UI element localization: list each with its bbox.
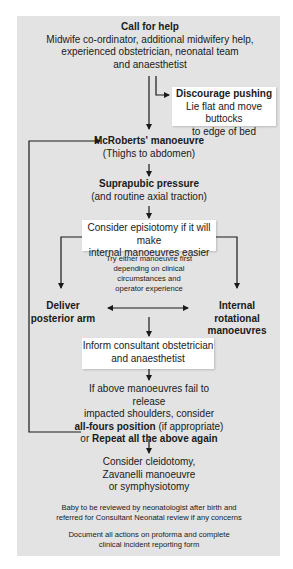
baby-review-line2: referred for Consultant Neonatal review …	[20, 513, 278, 523]
inform-consultant-line2: and anaesthetist	[82, 353, 214, 366]
suprapubic-subtitle: (and routine axial traction)	[89, 191, 209, 204]
final-options-node: Consider cleidotomy, Zavanelli manoeuvre…	[89, 456, 209, 494]
final-options-line1: Consider cleidotomy,	[89, 456, 209, 469]
repeat-text: Repeat all the above again	[92, 433, 218, 444]
document-line2: clinical incident reporting form	[20, 540, 278, 550]
if-fail-node: If above manoeuvres fail to release impa…	[74, 383, 224, 446]
call-for-help-line2: experienced obstetrician, neonatal team	[30, 46, 270, 59]
posterior-arm-node: Deliver posterior arm	[30, 300, 96, 325]
baby-review-line1: Baby to be reviewed by neonatologist aft…	[20, 503, 278, 513]
suprapubic-node: Suprapubic pressure (and routine axial t…	[89, 178, 209, 203]
suprapubic-title: Suprapubic pressure	[89, 178, 209, 191]
final-options-line2: Zavanelli manoeuvre	[89, 469, 209, 482]
try-either-note: Try either manoeuvre first depending on …	[94, 254, 204, 294]
discourage-pushing-node: Discourage pushing Lie flat and move but…	[172, 87, 276, 126]
if-fail-line3: all-fours position (if appropriate)	[74, 421, 224, 434]
inform-consultant-node: Inform consultant obstetrician and anaes…	[82, 338, 214, 369]
mcroberts-subtitle: (Thighs to abdomen)	[89, 148, 209, 161]
final-options-line3: or symphysiotomy	[89, 481, 209, 494]
posterior-arm-line2: posterior arm	[30, 313, 96, 326]
posterior-arm-line1: Deliver	[30, 300, 96, 313]
discourage-pushing-line1: Lie flat and move buttocks	[172, 101, 276, 126]
if-fail-line1: If above manoeuvres fail to release	[74, 383, 224, 408]
mcroberts-node: McRoberts' manoeuvre (Thighs to abdomen)	[89, 135, 209, 160]
internal-rotational-line2: manoeuvres	[196, 325, 278, 338]
mcroberts-title: McRoberts' manoeuvre	[89, 135, 209, 148]
try-either-line3: circumstances and	[94, 274, 204, 284]
inform-consultant-line1: Inform consultant obstetrician	[82, 340, 214, 353]
try-either-line2: depending on clinical	[94, 264, 204, 274]
call-for-help-line3: and anaesthetist	[30, 59, 270, 72]
call-for-help-line1: Midwife co-ordinator, additional midwife…	[30, 34, 270, 47]
or-text: or	[80, 433, 92, 444]
internal-rotational-line1: Internal rotational	[196, 300, 278, 325]
all-fours-text: all-fours position	[75, 421, 156, 432]
call-for-help-title: Call for help	[30, 21, 270, 34]
document-note: Document all actions on proforma and com…	[20, 530, 278, 550]
discourage-pushing-title: Discourage pushing	[172, 88, 276, 101]
episiotomy-line1: Consider episiotomy if it will make	[82, 222, 216, 247]
try-either-line1: Try either manoeuvre first	[94, 254, 204, 264]
if-fail-line2: impacted shoulders, consider	[74, 408, 224, 421]
call-for-help-node: Call for help Midwife co-ordinator, addi…	[30, 21, 270, 71]
try-either-line4: operator experience	[94, 284, 204, 294]
document-line1: Document all actions on proforma and com…	[20, 530, 278, 540]
episiotomy-node: Consider episiotomy if it will make inte…	[82, 220, 216, 251]
baby-review-note: Baby to be reviewed by neonatologist aft…	[20, 503, 278, 523]
internal-rotational-node: Internal rotational manoeuvres	[196, 300, 278, 338]
if-appropriate-text: (if appropriate)	[156, 421, 224, 432]
if-fail-line4: or Repeat all the above again	[74, 433, 224, 446]
